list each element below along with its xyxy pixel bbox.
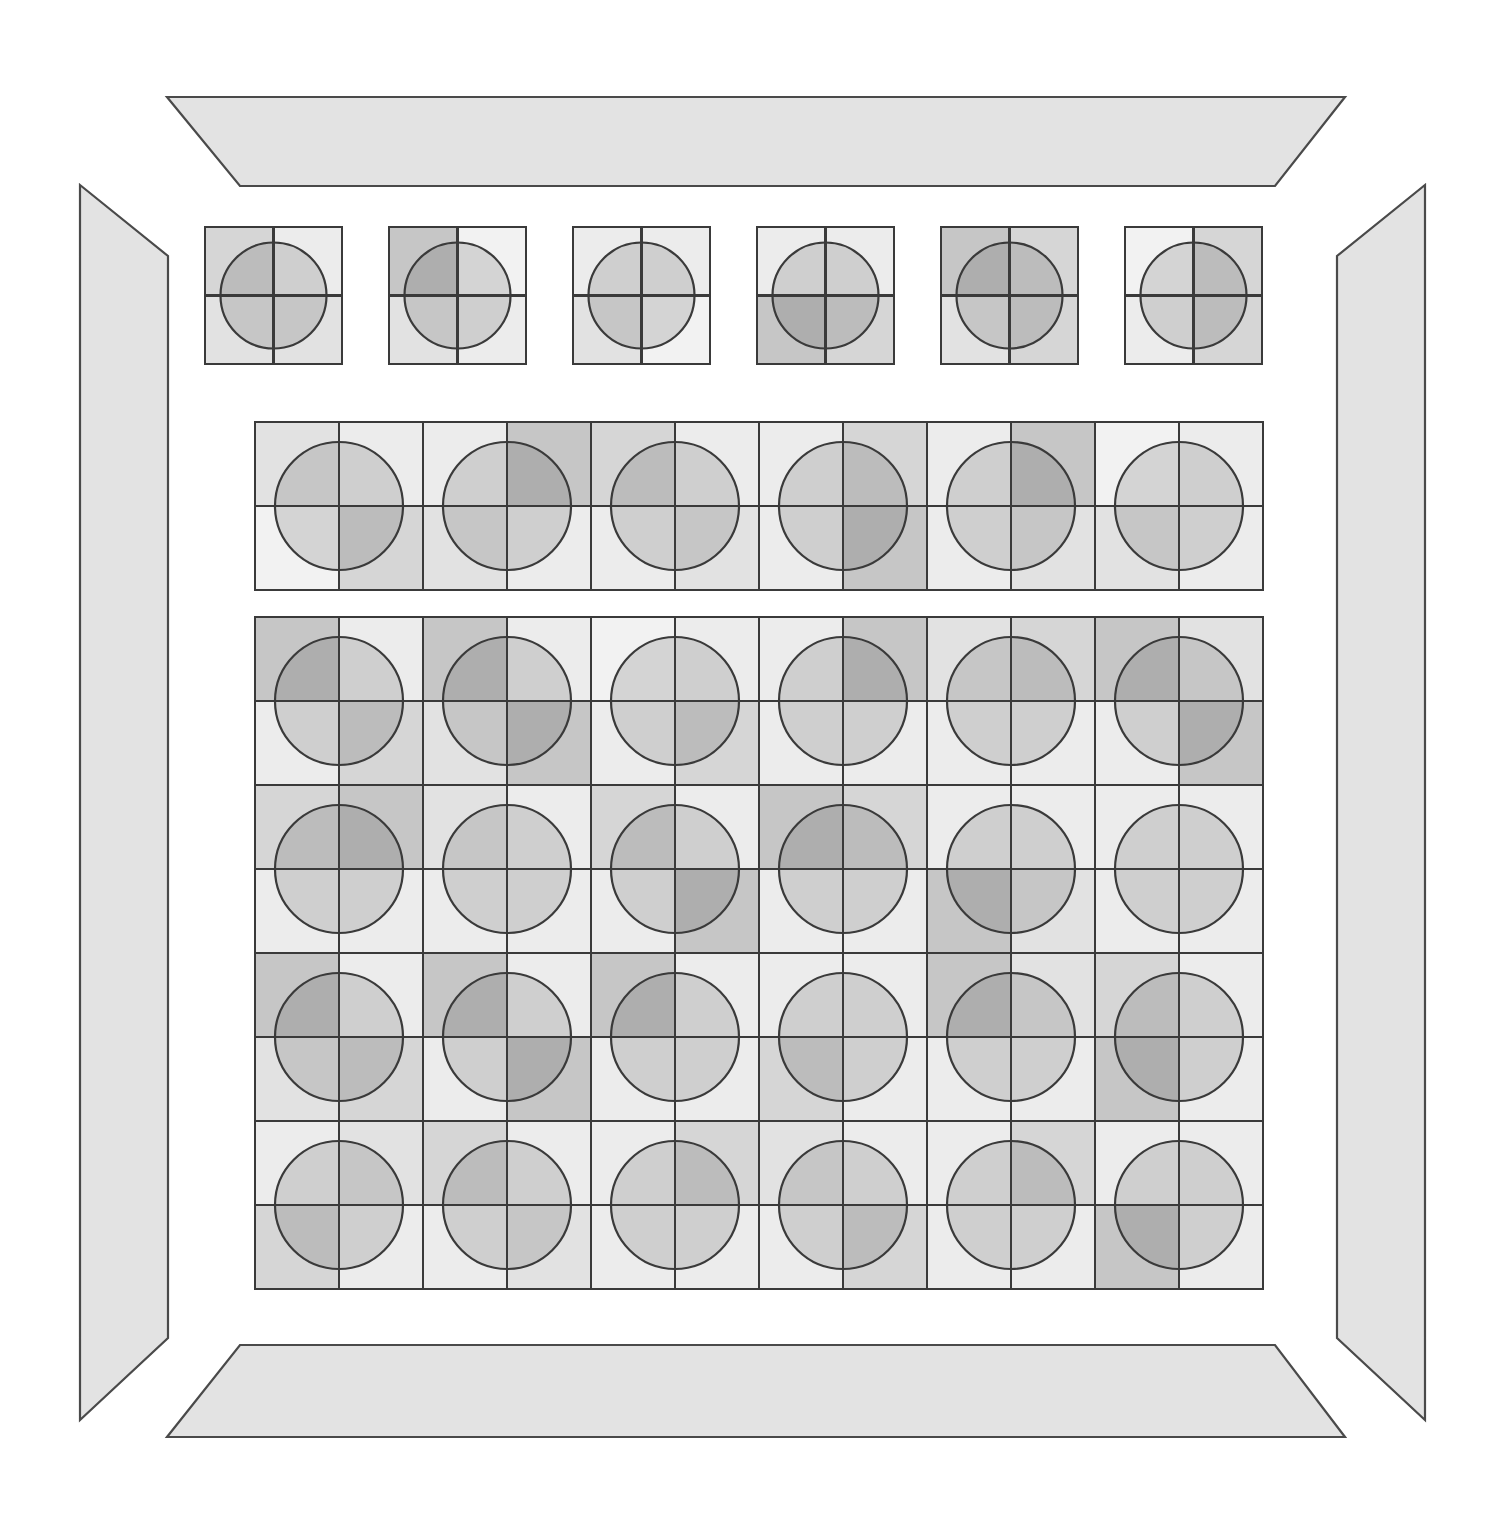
frame-left [80,185,168,1420]
frame-right [1337,185,1425,1420]
frame-top [167,97,1345,186]
artwork-canvas [0,0,1507,1522]
frame-bottom [167,1345,1345,1437]
frame-layer [0,0,1507,1522]
